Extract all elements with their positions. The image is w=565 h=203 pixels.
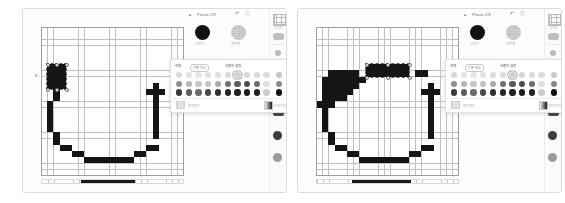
color-swatch[interactable] [225,72,231,78]
dot-small-icon[interactable] [275,50,281,56]
texture-brush[interactable] [506,25,521,40]
color-swatch[interactable] [186,81,192,87]
smudge-icon[interactable] [548,153,557,162]
color-swatch[interactable] [234,81,240,87]
grid-icon[interactable] [548,14,561,26]
color-swatch[interactable] [276,81,282,87]
color-swatch[interactable] [551,81,557,87]
color-swatch[interactable] [470,89,476,95]
solid-brush[interactable] [195,25,210,40]
pixel-canvas-left[interactable] [41,27,184,176]
color-swatch[interactable] [254,89,260,95]
color-swatch[interactable] [451,81,457,87]
color-swatch[interactable] [451,72,457,78]
smudge-icon[interactable] [273,153,282,162]
texture-brush[interactable] [231,25,246,40]
eraser-icon[interactable] [273,131,282,140]
color-swatch[interactable] [195,81,201,87]
color-swatch[interactable] [176,72,182,78]
color-swatch[interactable] [263,89,269,95]
color-swatch[interactable] [529,72,535,78]
undo-icon[interactable]: ↶ [235,12,239,17]
color-swatch[interactable] [215,89,221,95]
color-swatch[interactable] [538,89,544,95]
color-swatch[interactable] [176,89,182,95]
solid-brush[interactable] [470,25,485,40]
color-swatch[interactable] [470,72,476,78]
chevron-up-icon[interactable]: ▲ [463,13,467,17]
color-swatch[interactable] [234,89,240,95]
color-swatch[interactable] [529,89,535,95]
color-swatch[interactable] [551,72,557,78]
color-swatch[interactable] [263,72,269,78]
color-swatch[interactable] [509,89,515,95]
color-swatch[interactable] [186,89,192,95]
dot-small-icon[interactable] [550,50,556,56]
color-swatch[interactable] [551,89,557,95]
help-icon[interactable]: ⓘ [520,12,524,17]
color-swatch[interactable] [276,89,282,95]
shape-icon[interactable] [273,33,284,40]
color-swatch[interactable] [195,72,201,78]
color-swatch[interactable] [500,81,506,87]
color-swatch[interactable] [244,89,250,95]
color-swatch[interactable] [276,72,282,78]
palette-tab-basic[interactable]: 기본 색상 [190,64,209,72]
color-swatch[interactable] [519,72,525,78]
color-swatch[interactable] [480,72,486,78]
shape-icon[interactable] [548,33,559,40]
color-swatch[interactable] [538,81,544,87]
color-swatch[interactable] [509,72,515,78]
color-swatch[interactable] [215,72,221,78]
color-swatch[interactable] [500,89,506,95]
help-icon[interactable]: ⓘ [245,12,249,17]
color-swatch[interactable] [490,72,496,78]
color-swatch[interactable] [461,72,467,78]
palette-tab-basic[interactable]: 기본 색상 [465,64,484,72]
color-swatch[interactable] [461,81,467,87]
color-swatch[interactable] [538,72,544,78]
color-swatch[interactable] [215,81,221,87]
bottom-ruler-right[interactable] [316,179,459,184]
color-swatch[interactable] [480,81,486,87]
undo-icon[interactable]: ↶ [510,12,514,17]
opacity-icon[interactable] [451,101,460,109]
color-swatch[interactable] [186,72,192,78]
color-palette-popup-left[interactable]: 색채 기본 색상 사용자 설정 불투명도 그라데이션 [170,59,287,113]
eraser-icon[interactable] [548,131,557,140]
color-swatch[interactable] [490,81,496,87]
color-palette-popup-right[interactable]: 색채 기본 색상 사용자 설정 불투명도 그라데이션 [445,59,562,113]
color-swatch[interactable] [205,89,211,95]
color-swatch[interactable] [519,81,525,87]
color-swatch[interactable] [461,89,467,95]
color-swatch[interactable] [234,72,240,78]
pixel-canvas-right[interactable] [316,27,459,176]
color-swatch[interactable] [205,72,211,78]
color-swatch[interactable] [500,72,506,78]
color-swatch[interactable] [225,89,231,95]
color-swatch[interactable] [529,81,535,87]
color-swatch[interactable] [470,81,476,87]
color-swatch[interactable] [451,89,457,95]
palette-tab-custom[interactable]: 사용자 설정 [500,63,516,70]
color-swatch[interactable] [519,89,525,95]
color-swatch[interactable] [205,81,211,87]
grid-tool-label: 그리드 [273,26,284,30]
color-swatch[interactable] [254,72,260,78]
color-swatch[interactable] [480,89,486,95]
color-swatch[interactable] [509,81,515,87]
color-swatch[interactable] [490,89,496,95]
color-swatch[interactable] [244,72,250,78]
grid-icon[interactable] [273,14,286,26]
color-swatch[interactable] [254,81,260,87]
color-swatch[interactable] [176,81,182,87]
color-swatch[interactable] [244,81,250,87]
palette-tab-custom[interactable]: 사용자 설정 [225,63,241,70]
color-swatch[interactable] [195,89,201,95]
color-swatch[interactable] [225,81,231,87]
opacity-icon[interactable] [176,101,185,109]
bottom-ruler-left[interactable] [41,179,184,184]
color-swatch[interactable] [263,81,269,87]
chevron-up-icon[interactable]: ▲ [188,13,192,17]
texture-brush-label: 지우개 [499,41,521,46]
